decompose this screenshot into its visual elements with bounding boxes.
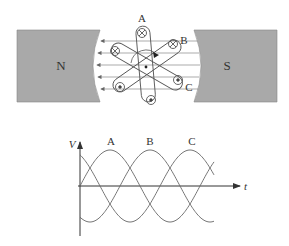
diagram-canvas: N S (0, 0, 289, 246)
south-magnet (194, 30, 277, 102)
phase-label-b: B (146, 135, 153, 147)
coil-label-b: B (180, 34, 187, 46)
rotor-axle (145, 66, 148, 69)
north-pole-label: N (56, 58, 66, 73)
south-pole-label: S (223, 58, 230, 73)
coil-label-c: C (185, 81, 192, 93)
coil-b (110, 37, 184, 94)
y-axis-label: V (69, 138, 77, 150)
phase-label-c: C (188, 135, 195, 147)
coil-label-a: A (138, 12, 146, 24)
x-axis-label: t (244, 180, 248, 192)
waveform-plot: V t A B C (69, 135, 248, 236)
phase-label-a: A (107, 135, 115, 147)
